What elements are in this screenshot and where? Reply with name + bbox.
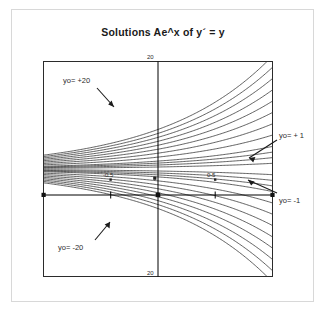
- annotation-y0-minus-1: yo= -1: [279, 196, 300, 205]
- axis-marker-left: [42, 193, 46, 197]
- annotation-y0-plus-1: yo= + 1: [279, 131, 304, 140]
- x-tick-label-neg-half: -0.5: [103, 172, 113, 178]
- x-tick-label-pos-half: 0.5: [207, 172, 215, 178]
- axis-marker-right: [270, 193, 274, 197]
- origin-marker: [156, 193, 161, 198]
- tick-dot-neg-half-upper: [109, 178, 111, 180]
- figure-canvas: Solutions Ae^x of y´ = y: [0, 0, 326, 312]
- annotation-y0-plus-20: yo= +20: [63, 76, 90, 85]
- plot-svg: [0, 0, 326, 312]
- tick-dot-origin-upper: [153, 177, 156, 180]
- tick-dot-pos-half-upper: [214, 178, 216, 180]
- annotation-y0-minus-20: yo= -20: [58, 243, 83, 252]
- y-tick-label-top: 20: [147, 54, 154, 60]
- y-tick-label-bottom: 20: [147, 270, 154, 276]
